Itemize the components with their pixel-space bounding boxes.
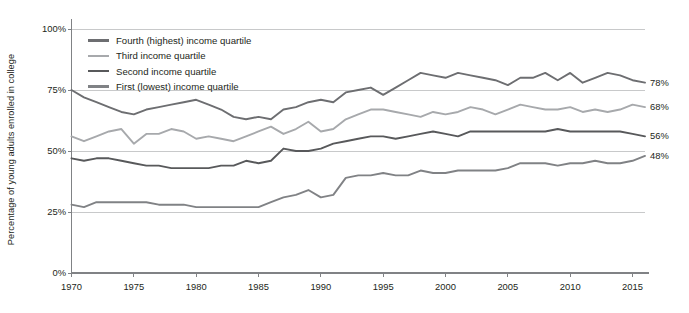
legend-swatch-icon [88,55,109,57]
legend-item-1[interactable]: Third income quartile [88,48,338,63]
series-end-label-1: 68% [650,102,688,112]
legend-swatch-icon [88,70,109,72]
legend-swatch-icon [88,39,109,41]
series-end-label-0: 78% [650,78,688,88]
legend-label: First (lowest) income quartile [116,81,239,92]
legend-label: Fourth (highest) income quartile [116,35,251,46]
series-end-label-3: 48% [650,151,688,161]
legend-label: Third income quartile [116,50,206,61]
legend-item-2[interactable]: Second income quartile [88,64,338,79]
legend-item-0[interactable]: Fourth (highest) income quartile [88,33,338,48]
series-end-label-2: 56% [650,131,688,141]
legend-item-3[interactable]: First (lowest) income quartile [88,79,338,94]
legend-swatch-icon [88,85,109,87]
legend-label: Second income quartile [116,66,216,77]
legend: Fourth (highest) income quartileThird in… [88,33,338,94]
line-chart: Percentage of young adults enrolled in c… [0,0,689,313]
